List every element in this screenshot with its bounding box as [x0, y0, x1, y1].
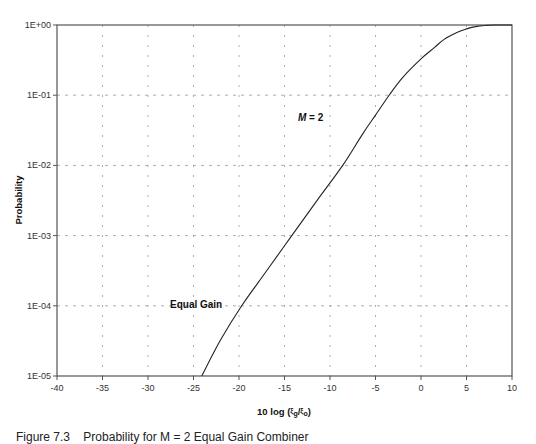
y-tick-label: 1E-03 — [27, 231, 51, 241]
x-tick-label: -40 — [50, 383, 63, 393]
y-tick-label: 1E-01 — [27, 90, 51, 100]
x-axis-ticks: -40-35-30-25-20-15-10-50510 — [50, 376, 517, 393]
y-tick-label: 1E-05 — [27, 371, 51, 381]
x-tick-label: -5 — [371, 383, 379, 393]
annotation-m-equals-2: M = 2 — [298, 112, 324, 123]
annotation-m-value: = 2 — [306, 112, 323, 123]
x-tick-label: 0 — [418, 383, 423, 393]
annotation-equal-gain: Equal Gain — [170, 299, 222, 310]
gridlines — [57, 25, 512, 376]
x-tick-label: -35 — [96, 383, 109, 393]
y-tick-label: 1E-04 — [27, 301, 51, 311]
y-tick-label: 1E-02 — [27, 160, 51, 170]
x-axis-title-suffix: ) — [308, 406, 311, 417]
figure-caption: Figure 7.3 Probability for M = 2 Equal G… — [16, 430, 308, 444]
x-axis-title: 10 log (ξg/ξo) — [257, 406, 311, 418]
equal-gain-curve — [202, 25, 512, 376]
x-tick-label: -15 — [278, 383, 291, 393]
x-tick-label: -20 — [232, 383, 245, 393]
x-tick-label: 10 — [507, 383, 517, 393]
y-axis-ticks: 1E+001E-011E-021E-031E-041E-05 — [25, 20, 57, 381]
x-tick-label: 5 — [464, 383, 469, 393]
y-tick-label: 1E+00 — [25, 20, 51, 30]
x-tick-label: -30 — [141, 383, 154, 393]
x-tick-label: -10 — [323, 383, 336, 393]
x-axis-title-prefix: 10 log ( — [257, 406, 291, 417]
x-tick-label: -25 — [187, 383, 200, 393]
plot-area-frame — [57, 25, 512, 376]
y-axis-title: Probability — [13, 175, 24, 225]
